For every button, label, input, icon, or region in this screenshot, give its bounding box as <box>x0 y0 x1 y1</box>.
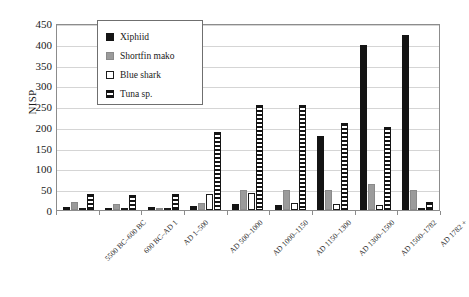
bar-group <box>227 25 269 210</box>
bar <box>384 127 391 210</box>
bar <box>206 194 213 210</box>
bar <box>79 208 86 210</box>
bar-group <box>312 25 354 210</box>
legend-item: Shortfin mako <box>106 46 202 65</box>
x-tick-mark <box>397 211 398 215</box>
bar <box>113 204 120 210</box>
bar <box>105 208 112 210</box>
legend-label: Tuna sp. <box>120 89 152 99</box>
bar <box>164 208 171 210</box>
x-tick-mark <box>440 211 441 215</box>
bar-group <box>57 25 99 210</box>
bar <box>275 205 282 210</box>
bar-group <box>269 25 311 210</box>
bar <box>410 190 417 210</box>
legend-item: Tuna sp. <box>106 84 202 103</box>
bar <box>376 205 383 210</box>
y-tick-label: 100 <box>26 164 52 175</box>
y-tick-label: 200 <box>26 122 52 133</box>
bar <box>291 203 298 210</box>
bar <box>256 105 263 210</box>
x-axis-tick-labels: 5500 BC–600 BC600 BC–AD 1AD 1–500AD 500–… <box>0 216 449 297</box>
bar <box>190 206 197 210</box>
bar <box>232 204 239 210</box>
legend-item: Blue shark <box>106 65 202 84</box>
bar <box>129 195 136 210</box>
y-tick-label: 350 <box>26 60 52 71</box>
x-tick-label: AD 1300–1500 <box>356 218 396 258</box>
bar <box>325 190 332 210</box>
bar <box>248 193 255 210</box>
legend-item: Xiphiid <box>106 27 202 46</box>
y-tick-label: 400 <box>26 39 52 50</box>
y-tick-label: 250 <box>26 102 52 113</box>
x-tick-label: AD 500–1000 <box>227 218 264 255</box>
x-tick-mark <box>355 211 356 215</box>
y-tick-label: 300 <box>26 81 52 92</box>
legend-swatch-icon <box>106 52 114 60</box>
bar <box>240 190 247 210</box>
bar-group <box>354 25 396 210</box>
legend-swatch-icon <box>106 71 114 79</box>
legend-label: Xiphiid <box>120 32 149 42</box>
legend-label: Shortfin mako <box>120 51 175 61</box>
chart-legend: XiphiidShortfin makoBlue sharkTuna sp. <box>97 20 203 105</box>
x-tick-mark <box>312 211 313 215</box>
x-tick-mark <box>184 211 185 215</box>
x-tick-label: AD 1500–1782 <box>399 218 439 258</box>
bar <box>368 184 375 210</box>
bar <box>63 207 70 210</box>
x-tick-mark <box>56 211 57 215</box>
bar <box>148 207 155 210</box>
bar <box>71 202 78 210</box>
bar <box>317 136 324 210</box>
bar <box>121 208 128 210</box>
bar <box>333 204 340 210</box>
x-tick-label: AD 1150–1300 <box>314 218 353 257</box>
bar <box>426 202 433 210</box>
legend-label: Blue shark <box>120 70 161 80</box>
y-tick-label: 450 <box>26 19 52 30</box>
x-tick-label: AD 1782 + <box>438 218 469 249</box>
bar <box>283 190 290 210</box>
x-tick-label: AD 1–500 <box>181 218 210 247</box>
bar <box>87 194 94 210</box>
x-tick-mark <box>227 211 228 215</box>
legend-swatch-icon <box>106 90 114 98</box>
bar <box>418 208 425 210</box>
bar <box>360 45 367 210</box>
x-tick-mark <box>141 211 142 215</box>
y-tick-label: 150 <box>26 143 52 154</box>
bar <box>341 123 348 210</box>
bar <box>172 194 179 210</box>
bar <box>156 208 163 210</box>
legend-swatch-icon <box>106 33 114 41</box>
y-axis-tick-labels: 450400350300250200150100500 <box>26 18 52 211</box>
x-tick-mark <box>269 211 270 215</box>
y-tick-label: 50 <box>26 185 52 196</box>
bar-group <box>397 25 439 210</box>
x-tick-label: AD 1000–1150 <box>271 218 310 257</box>
x-axis-tick-marks <box>56 211 440 215</box>
y-tick-label: 0 <box>26 206 52 217</box>
x-tick-label: 5500 BC–600 BC <box>103 218 148 263</box>
bar <box>198 203 205 210</box>
bar <box>402 35 409 210</box>
bar <box>299 105 306 210</box>
x-tick-mark <box>99 211 100 215</box>
bar <box>214 132 221 210</box>
